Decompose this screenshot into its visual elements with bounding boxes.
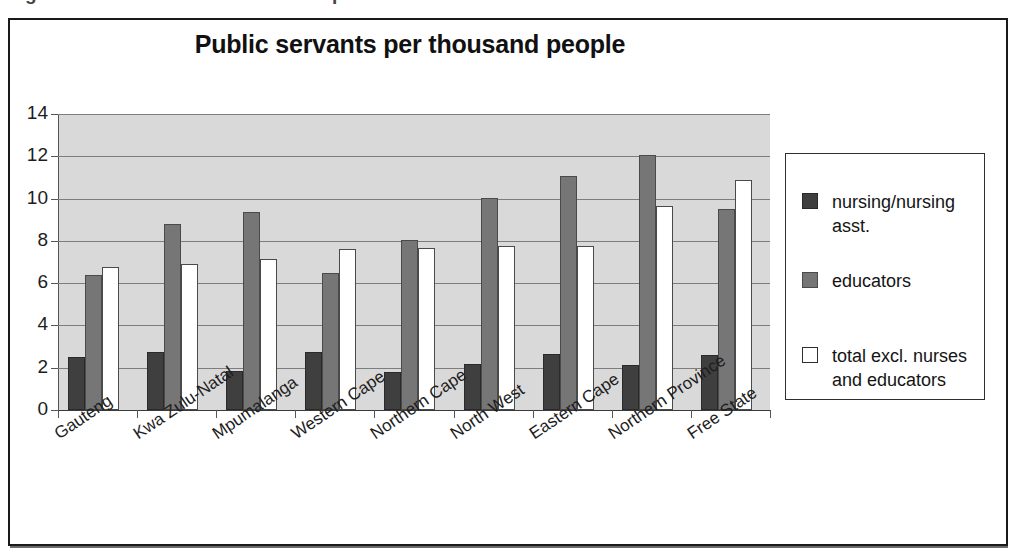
y-tick-label: 10 bbox=[8, 187, 48, 209]
x-tick-mark bbox=[216, 410, 217, 418]
legend-swatch-gray bbox=[802, 272, 818, 288]
bar bbox=[543, 354, 560, 410]
bar bbox=[656, 206, 673, 410]
y-tick-mark bbox=[51, 325, 58, 326]
y-tick-mark bbox=[51, 199, 58, 200]
bar bbox=[102, 267, 119, 410]
bar bbox=[147, 352, 164, 410]
x-tick-mark bbox=[612, 410, 613, 418]
bar bbox=[85, 275, 102, 410]
bar-group bbox=[533, 114, 612, 410]
bar bbox=[68, 357, 85, 410]
y-tick-mark bbox=[51, 410, 58, 411]
chart-legend: nursing/nursing asst.educatorstotal excl… bbox=[785, 153, 985, 400]
x-tick-mark bbox=[454, 410, 455, 418]
legend-item[interactable]: total excl. nurses and educators bbox=[802, 344, 982, 393]
y-tick-mark bbox=[51, 368, 58, 369]
legend-item-label: total excl. nurses and educators bbox=[832, 344, 982, 393]
bar-group bbox=[612, 114, 691, 410]
bar bbox=[243, 212, 260, 410]
bar-group bbox=[454, 114, 533, 410]
y-tick-label: 8 bbox=[8, 229, 48, 251]
bar bbox=[164, 224, 181, 410]
legend-swatch-dark bbox=[802, 193, 818, 209]
x-tick-mark bbox=[58, 410, 59, 418]
bar bbox=[639, 155, 656, 410]
bar-group bbox=[374, 114, 453, 410]
y-tick-mark bbox=[51, 156, 58, 157]
legend-item[interactable]: educators bbox=[802, 269, 911, 293]
legend-item-label: nursing/nursing asst. bbox=[832, 190, 982, 239]
bar bbox=[401, 240, 418, 410]
x-tick-mark bbox=[533, 410, 534, 418]
chart-title: Public servants per thousand people bbox=[40, 30, 780, 59]
y-tick-mark bbox=[51, 114, 58, 115]
y-tick-label: 12 bbox=[8, 144, 48, 166]
bar bbox=[718, 209, 735, 410]
legend-item[interactable]: nursing/nursing asst. bbox=[802, 190, 982, 239]
y-tick-label: 6 bbox=[8, 271, 48, 293]
y-tick-mark bbox=[51, 283, 58, 284]
bar bbox=[305, 352, 322, 410]
bar bbox=[622, 365, 639, 410]
bar bbox=[322, 273, 339, 410]
bar-group bbox=[295, 114, 374, 410]
bar bbox=[735, 180, 752, 410]
figure-caption-cropped: Figure 5.4 Provincial distribution of pu… bbox=[0, 0, 1017, 17]
bar bbox=[481, 198, 498, 410]
x-tick-mark bbox=[691, 410, 692, 418]
bar bbox=[464, 364, 481, 411]
y-tick-label: 14 bbox=[8, 102, 48, 124]
x-tick-mark bbox=[295, 410, 296, 418]
figure-frame: Public servants per thousand people 0246… bbox=[8, 18, 1008, 546]
x-tick-mark bbox=[770, 410, 771, 418]
plot-wrapper: 02468101214 GautengKwa Zulu-NatalMpumala… bbox=[58, 114, 770, 410]
y-tick-label: 4 bbox=[8, 313, 48, 335]
x-tick-mark bbox=[374, 410, 375, 418]
bar bbox=[560, 176, 577, 410]
y-tick-mark bbox=[51, 241, 58, 242]
figure-caption-text: Figure 5.4 Provincial distribution of pu… bbox=[8, 0, 471, 5]
bar-group bbox=[137, 114, 216, 410]
bar-group bbox=[58, 114, 137, 410]
y-tick-label: 2 bbox=[8, 356, 48, 378]
x-tick-mark bbox=[137, 410, 138, 418]
legend-item-label: educators bbox=[832, 269, 911, 293]
y-tick-label: 0 bbox=[8, 398, 48, 420]
legend-swatch-white bbox=[802, 347, 818, 363]
